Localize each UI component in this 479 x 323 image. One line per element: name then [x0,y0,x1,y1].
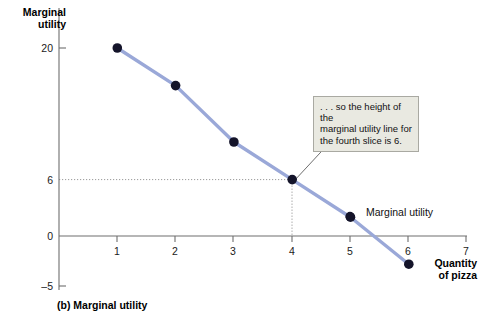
x-tick-label-7: 7 [463,245,469,257]
guide-lines [59,180,292,236]
x-tick-label-2: 2 [172,245,178,257]
y-axis-title-line1: Marginal [8,7,66,19]
x-tick-label-1: 1 [114,245,120,257]
annotation-line-3: the fourth slice is 6. [320,135,413,146]
data-point-marker [171,81,181,91]
data-point-marker [404,259,414,269]
x-axis-ticks [117,236,466,242]
x-axis-title-line2: of pizza [417,270,477,282]
annotation-callout: . . . so the height of the marginal util… [313,96,419,152]
x-tick-label-5: 5 [347,245,353,257]
y-axis-title: Marginal utility [8,7,66,30]
x-tick-label-3: 3 [230,245,236,257]
x-axis-tick-labels: 1 2 3 4 5 6 7 [114,245,469,257]
x-axis-title: Quantity of pizza [417,258,477,281]
x-tick-label-6: 6 [405,245,411,257]
series-label-marginal-utility: Marginal utility [366,206,433,218]
marginal-utility-figure: 20 6 0 –5 1 2 3 4 5 6 7 Marginal utility… [0,0,479,323]
data-point-marker [287,175,297,185]
data-point-marker [229,137,239,147]
chart-canvas: 20 6 0 –5 1 2 3 4 5 6 7 [0,0,479,323]
y-axis-ticks [59,48,66,286]
marginal-utility-line [117,48,409,264]
x-axis-title-line1: Quantity [417,258,477,270]
y-tick-label-0: 0 [47,230,53,242]
y-axis-title-line2: utility [8,19,66,31]
y-tick-label-6: 6 [47,174,53,186]
annotation-line-1: . . . so the height of the [320,101,413,123]
x-tick-label-4: 4 [289,245,295,257]
data-point-markers [113,43,414,269]
annotation-line-2: marginal utility line for [320,123,413,134]
y-tick-label-20: 20 [41,42,53,54]
data-point-marker [113,43,123,53]
figure-caption: (b) Marginal utility [57,299,147,311]
y-tick-label-minus5: –5 [41,280,53,292]
legend-marker-dot [345,212,354,221]
y-axis-tick-labels: 20 6 0 –5 [41,42,53,292]
